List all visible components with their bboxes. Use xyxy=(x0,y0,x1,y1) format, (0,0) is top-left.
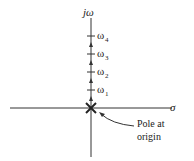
annotation-line1: Pole at xyxy=(137,118,165,129)
horizontal-axis-label: σ xyxy=(170,101,176,113)
svg-text:4: 4 xyxy=(105,36,109,44)
tick-label-w1: ω 1 xyxy=(97,83,109,98)
pole-zero-plot: jω σ ω 1 ω 2 ω 3 ω 4 Pole at origin xyxy=(0,0,194,161)
svg-text:1: 1 xyxy=(105,90,109,98)
svg-text:ω: ω xyxy=(97,47,104,59)
svg-text:ω: ω xyxy=(97,29,104,41)
annotation-line2: origin xyxy=(137,131,161,142)
annotation-arrow xyxy=(101,114,134,126)
tick-label-w2: ω 2 xyxy=(97,65,109,80)
svg-text:2: 2 xyxy=(105,72,109,80)
tick-label-w4: ω 4 xyxy=(97,29,109,44)
svg-text:3: 3 xyxy=(105,54,109,62)
tick-label-w3: ω 3 xyxy=(97,47,109,62)
vertical-axis-label: jω xyxy=(81,6,94,18)
svg-text:ω: ω xyxy=(97,83,104,95)
svg-text:ω: ω xyxy=(97,65,104,77)
